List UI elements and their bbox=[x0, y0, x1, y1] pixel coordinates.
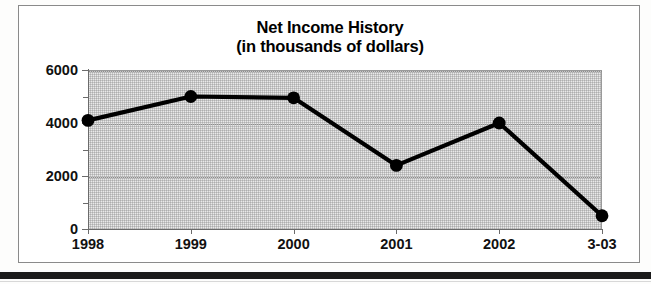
x-tick-3-03 bbox=[602, 229, 603, 234]
chart-subtitle: (in thousands of dollars) bbox=[19, 37, 641, 56]
y-axis-label: 6000 bbox=[18, 62, 78, 78]
y-axis-line bbox=[88, 69, 89, 230]
y-tick-2000 bbox=[82, 176, 88, 177]
x-axis-label: 1999 bbox=[146, 236, 236, 252]
y-tick-minor-3000 bbox=[83, 150, 88, 151]
x-tick-1999 bbox=[191, 229, 192, 234]
x-axis-label: 2000 bbox=[249, 236, 339, 252]
x-tick-2001 bbox=[396, 229, 397, 234]
gridline-2000 bbox=[88, 177, 602, 178]
y-axis-label: 4000 bbox=[18, 115, 78, 131]
x-axis-line bbox=[88, 229, 603, 230]
y-tick-minor-5000 bbox=[83, 97, 88, 98]
x-tick-2002 bbox=[499, 229, 500, 234]
y-tick-minor-1000 bbox=[83, 203, 88, 204]
x-axis-label: 3-03 bbox=[557, 236, 647, 252]
x-tick-2000 bbox=[294, 229, 295, 234]
gridline-6000 bbox=[88, 71, 602, 72]
x-axis-label: 2002 bbox=[454, 236, 544, 252]
x-axis-label: 2001 bbox=[351, 236, 441, 252]
x-tick-1998 bbox=[88, 229, 89, 234]
y-tick-6000 bbox=[82, 70, 88, 71]
y-axis-label: 0 bbox=[18, 221, 78, 237]
chart-title-block: Net Income History (in thousands of doll… bbox=[19, 18, 641, 56]
chart-page: Net Income History (in thousands of doll… bbox=[0, 0, 651, 284]
gridline-4000 bbox=[88, 124, 602, 125]
y-tick-4000 bbox=[82, 123, 88, 124]
page-bottom-rule-thin bbox=[0, 281, 651, 282]
chart-title: Net Income History bbox=[19, 18, 641, 37]
plot-area bbox=[88, 70, 602, 229]
x-axis-label: 1998 bbox=[43, 236, 133, 252]
y-axis-label: 2000 bbox=[18, 168, 78, 184]
plot-halftone-texture bbox=[88, 71, 601, 229]
page-bottom-rule bbox=[0, 272, 651, 279]
